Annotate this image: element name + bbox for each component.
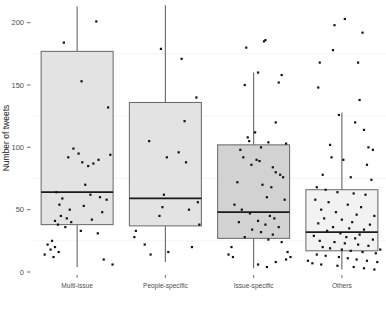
- data-point: [366, 260, 368, 262]
- data-point: [80, 230, 82, 232]
- data-point: [333, 24, 335, 26]
- box-iqr: [218, 145, 290, 238]
- data-point: [286, 251, 288, 253]
- data-point: [285, 258, 287, 260]
- data-point: [285, 143, 287, 145]
- data-point: [356, 258, 358, 260]
- data-point: [289, 256, 291, 258]
- y-axis-tick-label: 150: [11, 81, 24, 90]
- data-point: [275, 261, 277, 263]
- data-point: [238, 221, 240, 223]
- data-point: [81, 161, 83, 163]
- data-point: [275, 171, 277, 173]
- data-point: [106, 199, 108, 201]
- data-point: [281, 74, 283, 76]
- data-point: [347, 204, 349, 206]
- data-point: [373, 215, 375, 217]
- data-point: [372, 238, 374, 240]
- data-point: [327, 201, 329, 203]
- data-point: [148, 140, 150, 142]
- data-point: [167, 251, 169, 253]
- y-axis-tick-label: 100: [11, 143, 24, 152]
- data-point: [72, 147, 74, 149]
- data-point: [264, 224, 266, 226]
- data-point: [348, 227, 350, 229]
- data-point: [89, 194, 91, 196]
- data-point: [266, 266, 268, 268]
- data-point: [61, 197, 63, 199]
- y-axis-title: Number of tweets: [1, 105, 11, 172]
- data-point: [354, 121, 356, 123]
- data-point: [185, 161, 187, 163]
- data-point: [183, 120, 185, 122]
- data-point: [101, 211, 103, 213]
- data-point: [227, 253, 229, 255]
- data-point: [361, 251, 363, 253]
- data-point: [317, 222, 319, 224]
- data-point: [329, 247, 331, 249]
- data-point: [103, 258, 105, 260]
- data-point: [239, 149, 241, 151]
- data-point: [353, 266, 355, 268]
- data-point: [230, 246, 232, 248]
- data-point: [279, 174, 281, 176]
- data-point: [319, 61, 321, 63]
- data-point: [332, 226, 334, 228]
- data-point: [84, 184, 86, 186]
- data-point: [54, 246, 56, 248]
- data-point: [326, 230, 328, 232]
- data-point: [260, 146, 262, 148]
- data-point: [241, 209, 243, 211]
- data-point: [322, 246, 324, 248]
- data-point: [111, 263, 113, 265]
- data-point: [375, 252, 377, 254]
- data-point: [95, 20, 97, 22]
- data-point: [350, 176, 352, 178]
- data-point: [357, 243, 359, 245]
- data-point: [97, 159, 99, 161]
- data-point: [325, 255, 327, 257]
- data-point: [44, 253, 46, 255]
- data-point: [358, 234, 360, 236]
- data-point: [363, 267, 365, 269]
- data-point: [330, 156, 332, 158]
- data-point: [257, 220, 259, 222]
- data-point: [323, 217, 325, 219]
- data-point: [351, 221, 353, 223]
- data-point: [257, 263, 259, 265]
- data-point: [267, 238, 269, 240]
- data-point: [272, 166, 274, 168]
- data-point: [267, 141, 269, 143]
- data-point: [341, 219, 343, 221]
- data-point: [83, 205, 85, 207]
- data-point: [347, 257, 349, 259]
- data-point: [336, 191, 338, 193]
- data-point: [91, 219, 93, 221]
- data-point: [273, 217, 275, 219]
- data-point: [58, 204, 60, 206]
- data-point: [376, 261, 378, 263]
- data-point: [87, 165, 89, 167]
- data-point: [379, 248, 381, 250]
- data-point: [55, 191, 57, 193]
- data-point: [166, 156, 168, 158]
- data-point: [357, 61, 359, 63]
- data-point: [272, 234, 274, 236]
- data-point: [195, 96, 197, 98]
- data-point: [350, 250, 352, 252]
- data-point: [197, 201, 199, 203]
- data-point: [255, 159, 257, 161]
- data-point: [339, 232, 341, 234]
- data-point: [319, 240, 321, 242]
- data-point: [178, 151, 180, 153]
- data-point: [344, 18, 346, 20]
- chart-canvas: 050100150200Number of tweetsMulti-issueP…: [0, 0, 386, 311]
- data-point: [369, 224, 371, 226]
- data-point: [161, 206, 163, 208]
- data-point: [80, 80, 82, 82]
- data-point: [244, 84, 246, 86]
- data-point: [363, 229, 365, 231]
- data-point: [47, 243, 49, 245]
- data-point: [64, 226, 66, 228]
- data-point: [245, 47, 247, 49]
